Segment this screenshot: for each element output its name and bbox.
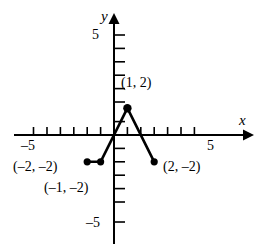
plot-canvas bbox=[0, 0, 259, 246]
x-axis-tick-label-neg5: –5 bbox=[21, 139, 35, 153]
point-label-peak: (1, 2) bbox=[121, 76, 151, 90]
data-point-marker bbox=[123, 104, 131, 112]
y-axis-arrow bbox=[109, 13, 120, 24]
data-point-marker bbox=[97, 158, 104, 165]
x-axis-tick-label-pos5: 5 bbox=[207, 139, 214, 153]
coordinate-plane-figure: y x –5 5 5 –5 (–2, –2) (–1, –2) (1, 2) (… bbox=[0, 0, 259, 246]
y-axis-ticks bbox=[114, 35, 125, 222]
point-label-right-end: (2, –2) bbox=[163, 160, 200, 174]
x-axis-label: x bbox=[239, 113, 246, 128]
x-axis-arrow bbox=[243, 130, 254, 141]
data-point-marker bbox=[84, 158, 91, 165]
point-label-left-inner: (–1, –2) bbox=[44, 181, 88, 195]
y-axis-tick-label-neg5: –5 bbox=[86, 216, 100, 230]
y-axis-tick-label-pos5: 5 bbox=[92, 28, 99, 42]
data-point-marker bbox=[151, 158, 158, 165]
point-label-left-end: (–2, –2) bbox=[13, 160, 57, 174]
y-axis-label: y bbox=[101, 9, 108, 24]
